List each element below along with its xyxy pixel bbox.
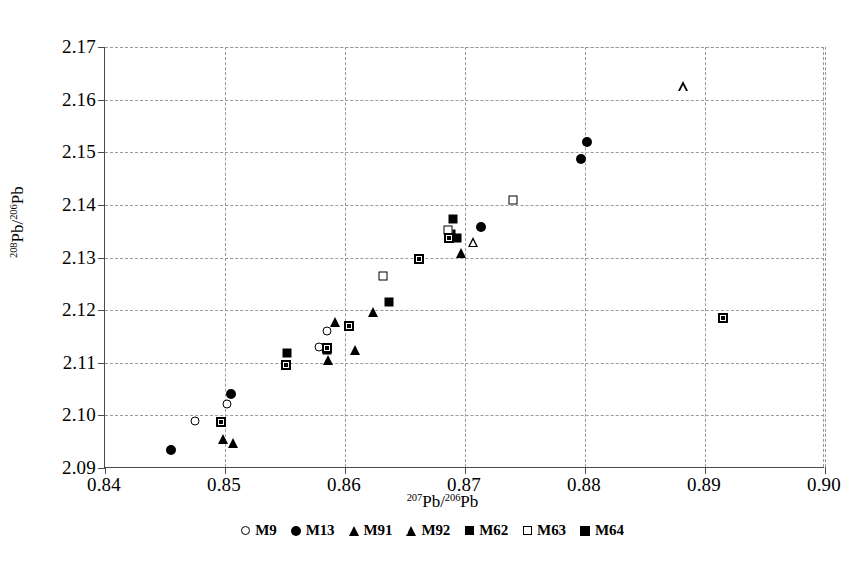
data-point[interactable] bbox=[323, 327, 332, 336]
y-axis-title-sup-208: 208 bbox=[8, 243, 19, 259]
x-axis-tick bbox=[705, 467, 706, 474]
data-point[interactable] bbox=[476, 222, 486, 232]
x-axis-tick bbox=[105, 467, 106, 474]
marker-square-open bbox=[509, 195, 518, 204]
marker-circle-open bbox=[223, 399, 232, 408]
legend-swatch-square-fill-icon bbox=[463, 525, 475, 537]
marker-circle-open bbox=[241, 526, 250, 535]
scatter-plot-figure: 2.092.102.112.122.132.142.152.162.17 208… bbox=[0, 0, 863, 569]
data-point[interactable] bbox=[191, 416, 200, 425]
data-point[interactable] bbox=[226, 389, 236, 399]
data-point[interactable] bbox=[350, 345, 360, 355]
data-point[interactable] bbox=[379, 271, 388, 280]
marker-circle-fill bbox=[576, 154, 586, 164]
marker-triangle-fill bbox=[456, 248, 466, 258]
y-axis-title-sup-206: 206 bbox=[8, 204, 19, 220]
y-axis-tick-label: 2.15 bbox=[62, 141, 96, 163]
legend-swatch-square-half-icon bbox=[579, 525, 591, 537]
marker-square-half bbox=[344, 321, 354, 331]
y-axis-tick bbox=[98, 468, 105, 469]
marker-triangle-fill bbox=[228, 438, 238, 448]
y-axis-tick-label: 2.13 bbox=[62, 247, 96, 269]
data-point[interactable] bbox=[385, 298, 394, 307]
legend-item-m9[interactable]: M9 bbox=[239, 522, 276, 539]
data-point[interactable] bbox=[368, 307, 378, 317]
y-axis-tick bbox=[98, 258, 105, 259]
y-axis-tick-label: 2.10 bbox=[62, 404, 96, 426]
marker-square-half bbox=[281, 360, 291, 370]
y-axis-tick bbox=[98, 47, 105, 48]
legend-swatch-triangle-open-icon bbox=[405, 525, 417, 537]
x-axis-tick bbox=[225, 467, 226, 474]
data-point[interactable] bbox=[449, 215, 458, 224]
legend-item-m92[interactable]: M92 bbox=[405, 522, 450, 539]
data-point[interactable] bbox=[582, 137, 592, 147]
legend-item-m62[interactable]: M62 bbox=[463, 522, 508, 539]
data-point[interactable] bbox=[414, 254, 424, 264]
data-point[interactable] bbox=[718, 313, 728, 323]
marker-triangle-fill bbox=[350, 345, 360, 355]
marker-square-fill bbox=[449, 215, 458, 224]
marker-square-open bbox=[523, 526, 532, 535]
data-point[interactable] bbox=[330, 317, 340, 327]
legend-item-m64[interactable]: M64 bbox=[579, 522, 624, 539]
legend-label: M91 bbox=[364, 522, 393, 539]
marker-triangle-fill bbox=[330, 317, 340, 327]
marker-square-half bbox=[216, 417, 226, 427]
data-point[interactable] bbox=[216, 417, 226, 427]
legend-swatch-circle-fill-icon bbox=[290, 525, 302, 537]
legend-label: M92 bbox=[421, 522, 450, 539]
marker-circle-open bbox=[323, 327, 332, 336]
data-point[interactable] bbox=[456, 248, 466, 258]
marker-circle-fill bbox=[291, 526, 301, 536]
data-point[interactable] bbox=[281, 360, 291, 370]
marker-square-fill bbox=[385, 298, 394, 307]
legend-item-m91[interactable]: M91 bbox=[348, 522, 393, 539]
marker-square-open bbox=[379, 271, 388, 280]
data-point[interactable] bbox=[468, 237, 478, 247]
y-axis-title: 208Pb/206Pb bbox=[8, 186, 28, 258]
data-point[interactable] bbox=[444, 233, 454, 243]
legend-item-m63[interactable]: M63 bbox=[521, 522, 566, 539]
gridline-vertical bbox=[705, 47, 706, 467]
legend-label: M9 bbox=[255, 522, 276, 539]
data-point[interactable] bbox=[223, 399, 232, 408]
gridline-vertical bbox=[345, 47, 346, 467]
legend-label: M13 bbox=[306, 522, 335, 539]
marker-triangle-fill bbox=[218, 434, 228, 444]
data-point[interactable] bbox=[283, 349, 292, 358]
marker-triangle-fill bbox=[323, 355, 333, 365]
y-axis-tick-label: 2.16 bbox=[62, 89, 96, 111]
y-axis-tick-label: 2.17 bbox=[62, 36, 96, 58]
x-axis-title-sup-207: 207 bbox=[407, 492, 423, 503]
legend-label: M64 bbox=[595, 522, 624, 539]
marker-triangle-open bbox=[678, 81, 688, 91]
data-point[interactable] bbox=[323, 355, 333, 365]
y-axis-tick bbox=[98, 310, 105, 311]
marker-circle-fill bbox=[166, 445, 176, 455]
marker-square-half bbox=[444, 233, 454, 243]
legend-item-m13[interactable]: M13 bbox=[290, 522, 335, 539]
data-point[interactable] bbox=[678, 81, 688, 91]
x-axis-tick bbox=[345, 467, 346, 474]
y-axis-tick-label: 2.12 bbox=[62, 299, 96, 321]
data-point[interactable] bbox=[166, 445, 176, 455]
data-point[interactable] bbox=[576, 154, 586, 164]
x-axis-tick bbox=[585, 467, 586, 474]
data-point[interactable] bbox=[509, 195, 518, 204]
data-point[interactable] bbox=[322, 343, 332, 353]
data-point[interactable] bbox=[228, 438, 238, 448]
marker-square-half bbox=[580, 526, 590, 536]
y-axis-tick bbox=[98, 152, 105, 153]
data-point[interactable] bbox=[344, 321, 354, 331]
x-axis-title-sup-206: 206 bbox=[445, 492, 461, 503]
marker-square-fill bbox=[283, 349, 292, 358]
marker-square-half bbox=[414, 254, 424, 264]
marker-triangle-fill bbox=[349, 526, 359, 536]
chart-legend: M9M13M91M92M62M63M64 bbox=[0, 522, 863, 539]
marker-square-half bbox=[718, 313, 728, 323]
data-point[interactable] bbox=[218, 434, 228, 444]
marker-triangle-open bbox=[406, 526, 416, 536]
marker-circle-fill bbox=[582, 137, 592, 147]
x-axis-tick bbox=[825, 467, 826, 474]
